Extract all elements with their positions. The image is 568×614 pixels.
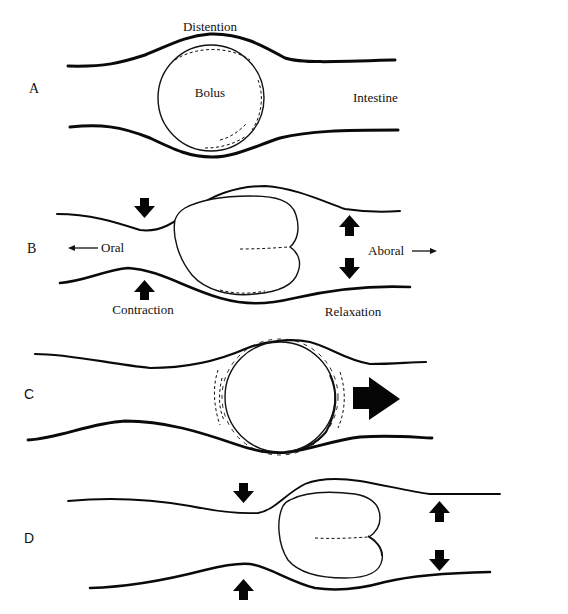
bolus-round [214,339,344,455]
contraction-arrow-up-icon [233,579,254,600]
intestine-label: Intestine [353,90,398,105]
contraction-arrow-down-icon [233,483,254,503]
bolus-compressed [279,492,382,578]
peristalsis-figure: A Distention Bolus Intestine B [0,0,568,614]
contraction-label: Contraction [112,302,174,317]
panel-letter-c: C [24,386,34,402]
panel-letter-d: D [24,530,34,546]
relaxation-arrow-down-icon [339,258,360,279]
oral-label: Oral [101,240,124,255]
oral-direction-arrow-icon [68,245,98,251]
relaxation-arrow-up-icon [339,215,360,236]
relaxation-arrow-up-icon [429,501,450,522]
propulsion-arrow-right-icon [353,377,400,420]
distention-label: Distention [183,19,238,34]
panel-c: C [24,339,432,455]
intestine-wall-bottom [28,421,432,453]
contraction-arrow-down-icon [134,198,155,218]
intestine-wall-bottom [90,564,490,590]
relaxation-label: Relaxation [325,304,382,319]
bolus-compressed [174,196,299,295]
aboral-label: Aboral [368,243,404,258]
panel-a: A Distention Bolus Intestine [29,19,398,157]
relaxation-arrow-down-icon [429,550,450,571]
panel-letter-b: B [27,241,36,256]
figure-caption-cropped [18,604,538,614]
panel-d: D [24,479,500,600]
bolus-label: Bolus [195,85,225,100]
aboral-direction-arrow-icon [412,248,437,254]
contraction-arrow-up-icon [134,280,155,300]
panel-b: B Oral Aboral [27,186,437,319]
intestine-wall-top [35,340,426,368]
panel-letter-a: A [29,81,40,96]
